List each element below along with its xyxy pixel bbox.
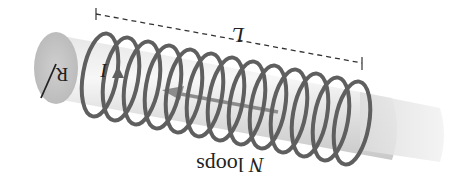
core-right-end — [360, 92, 444, 162]
length-label: L — [232, 23, 245, 48]
loops-label: N loops — [196, 153, 265, 178]
solenoid-figure: L R — [0, 0, 459, 196]
radius-label: R — [55, 64, 68, 85]
solenoid-diagram: L R — [0, 0, 459, 196]
